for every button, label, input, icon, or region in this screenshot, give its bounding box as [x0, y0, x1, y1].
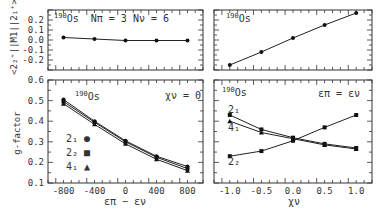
y-axis-label-bottom: g-factor	[12, 111, 22, 154]
data-point	[228, 63, 232, 67]
data-point	[354, 11, 358, 15]
bottom-right-condition: επ = εν	[318, 88, 360, 99]
data-point	[291, 36, 295, 40]
legend-2-1: 2₁ ●	[66, 133, 90, 144]
curve-label-4-1: 4₁	[228, 122, 240, 133]
bottom-right-annotation: 190Os	[222, 86, 247, 98]
y-tick-label: -0.1	[22, 45, 44, 55]
x-tick-label: 800	[179, 186, 195, 196]
top-left-annotation: 190Os Nπ = 3 Nν = 6	[54, 12, 169, 24]
y-tick-label: 0.1	[28, 25, 44, 35]
x-axis-label-right: χν	[288, 196, 300, 207]
y-tick-label: 0.1	[28, 178, 44, 188]
y-tick-label: 0.5	[28, 96, 44, 106]
data-point	[323, 23, 327, 27]
x-tick-label: -400	[84, 186, 106, 196]
top-right-annotation: 190Os	[226, 12, 251, 24]
y-tick-label: 0.2	[28, 15, 44, 25]
curve-label-2-1: 2₁	[228, 104, 240, 115]
data-point	[186, 39, 190, 43]
y-tick-label: 0.6	[28, 75, 44, 85]
y-tick-label: 0.4	[28, 116, 44, 126]
y-tick-label: 0.0	[28, 35, 44, 45]
data-point	[155, 39, 159, 43]
figure-canvas: 0.20.10.0-0.1-0.20.60.50.40.30.20.1-800-…	[0, 0, 377, 220]
series-line	[230, 121, 356, 149]
data-point	[259, 50, 263, 54]
data-point	[291, 139, 295, 143]
series-line	[230, 115, 356, 148]
y-tick-label: 0.3	[28, 137, 44, 147]
legend-2-2: 2₂ ■	[66, 147, 90, 158]
data-point	[93, 37, 97, 41]
x-tick-label: 0	[123, 186, 128, 196]
data-point	[62, 36, 66, 40]
data-point	[323, 125, 327, 129]
data-point	[124, 39, 128, 43]
bottom-left-condition: χν = 0	[165, 90, 201, 101]
x-tick-label: -1.0	[219, 186, 241, 196]
x-tick-label: 0.5	[316, 186, 332, 196]
x-tick-label: -0.5	[251, 186, 273, 196]
curve-label-2-2: 2₂	[228, 156, 240, 167]
x-tick-label: 400	[148, 186, 164, 196]
y-axis-label-top: <2₂⁺||M1||2₁⁺>	[9, 0, 19, 75]
y-tick-label: -0.2	[22, 55, 44, 65]
bottom-left-annotation: 190Os	[75, 90, 100, 102]
y-tick-label: 0.2	[28, 157, 44, 167]
series-line	[230, 115, 356, 156]
x-tick-label: 0.0	[285, 186, 301, 196]
x-axis-label-left: επ − εν	[104, 196, 146, 207]
x-tick-label: 1.0	[348, 186, 364, 196]
x-tick-label: -800	[53, 186, 75, 196]
data-point	[259, 149, 263, 153]
legend-4-1: 4₁ ▲	[66, 161, 90, 172]
data-point	[354, 113, 358, 117]
